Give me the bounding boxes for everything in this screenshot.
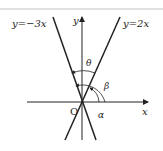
label-beta: β xyxy=(103,81,109,91)
label-theta: θ xyxy=(86,58,92,68)
label-y-axis: y xyxy=(72,15,79,26)
label-origin: O xyxy=(70,106,78,117)
line-y-2x xyxy=(65,17,120,140)
label-alpha: α xyxy=(98,110,104,120)
coordinate-diagram: y=−3x y=2x y x O θ β α xyxy=(0,0,163,151)
label-y-2x: y=2x xyxy=(122,18,149,29)
theta-arc xyxy=(72,71,95,73)
line-y-neg3x xyxy=(53,17,96,140)
label-x-axis: x xyxy=(142,106,148,117)
label-y-neg3x: y=−3x xyxy=(11,18,47,29)
